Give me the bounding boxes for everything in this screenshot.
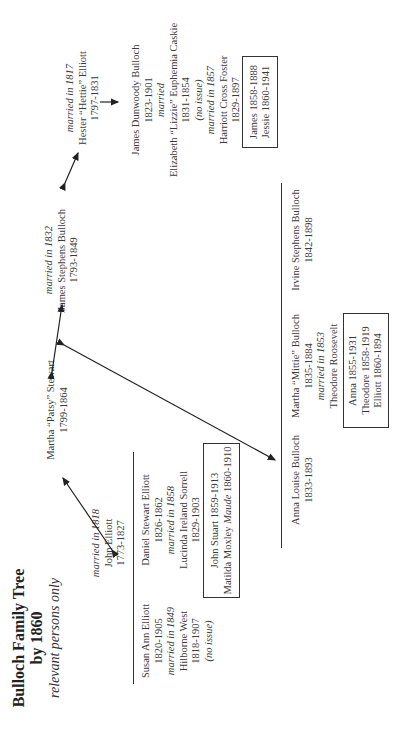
descent-arrow-bulloch-children	[64, 345, 275, 460]
family-tree-canvas: Bulloch Family Tree by 1860 relevant per…	[0, 0, 405, 738]
marriage-arrow-john-martha	[63, 478, 112, 550]
marriage-arrow-martha-james	[52, 305, 62, 372]
marriage-arrow-james-hester	[65, 153, 78, 183]
relationship-arrows	[0, 0, 405, 738]
